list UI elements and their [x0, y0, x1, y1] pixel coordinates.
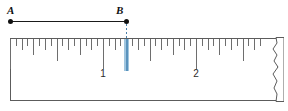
ruler-tick — [208, 39, 209, 50]
ruler-tick — [97, 39, 98, 46]
ruler-tick — [155, 39, 156, 46]
ruler-body — [10, 38, 278, 101]
ruler-tick — [190, 39, 191, 46]
point-b-label: B — [116, 5, 124, 16]
ruler-tick — [132, 39, 133, 46]
ruler-tick — [237, 39, 238, 46]
ruler-tick — [219, 39, 220, 55]
highlight-dashed-leader — [126, 24, 127, 40]
point-b-dot — [124, 19, 129, 24]
ruler-number-2: 2 — [193, 69, 199, 79]
ruler-tick — [16, 39, 17, 46]
ruler-tick — [161, 39, 162, 50]
ruler-tick — [184, 39, 185, 50]
point-a-dot — [8, 19, 13, 24]
ruler-tick — [91, 39, 92, 50]
ruler-tick — [225, 39, 226, 46]
ruler-tick — [173, 39, 174, 55]
ruler-tick — [150, 39, 151, 61]
ruler-tick — [115, 39, 116, 50]
ruler-tick — [243, 39, 244, 61]
ruler-tick — [109, 39, 110, 46]
highlight-core-line — [126, 39, 128, 71]
ruler-tick — [260, 39, 261, 46]
ruler-tick — [144, 39, 145, 46]
ruler-tick — [248, 39, 249, 46]
ruler-tick — [33, 39, 34, 55]
ruler-tick — [202, 39, 203, 46]
ruler-tick — [179, 39, 180, 46]
ruler-tick — [80, 39, 81, 55]
segment-ab-line — [10, 21, 126, 22]
ruler-tick — [10, 39, 11, 69]
ruler-measurement-figure: 12 A B — [0, 0, 288, 111]
ruler-tick — [254, 39, 255, 50]
ruler-tick — [120, 39, 121, 46]
ruler-tick — [22, 39, 23, 50]
ruler-tick — [138, 39, 139, 50]
ruler-tick — [45, 39, 46, 50]
ruler-tick — [213, 39, 214, 46]
ruler-tick — [68, 39, 69, 50]
ruler-tick — [57, 39, 58, 61]
ruler-tick — [86, 39, 87, 46]
ruler-tick — [74, 39, 75, 46]
ruler-number-1: 1 — [100, 69, 106, 79]
point-a-label: A — [7, 5, 15, 16]
ruler-tick — [103, 39, 104, 69]
ruler-tick — [51, 39, 52, 46]
ruler-tick — [39, 39, 40, 46]
ruler-tick — [27, 39, 28, 46]
ruler-tick — [196, 39, 197, 69]
ruler-tick — [231, 39, 232, 50]
ruler-tick — [167, 39, 168, 46]
ruler-tick — [62, 39, 63, 46]
